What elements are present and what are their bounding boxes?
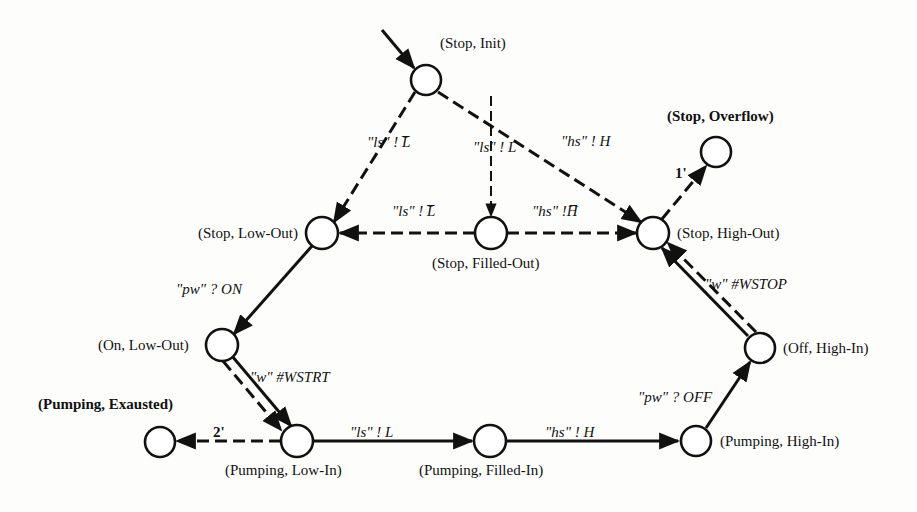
state-pumping-low-in: [281, 425, 313, 457]
state-off-high-in: [745, 333, 775, 363]
label-edge-lowout-onlowout: "pw" ? ON: [176, 281, 243, 297]
label-pumping-filled-in: (Pumping, Filled-In): [419, 462, 543, 479]
edge-highin-offhighin: [706, 362, 750, 428]
state-stop-filled-out: [475, 217, 507, 249]
label-pumping-low-in: (Pumping, Low-In): [225, 462, 342, 479]
state-on-low-out: [206, 329, 238, 361]
state-stop-low-out: [306, 217, 338, 249]
label-edge-init-filledout: "ls" ! L: [473, 139, 516, 155]
label-edge-highout-overflow: 1': [675, 165, 687, 181]
label-off-high-in: (Off, High-In): [783, 340, 869, 357]
state-pumping-exausted: [145, 427, 175, 457]
label-stop-low-out: (Stop, Low-Out): [198, 225, 298, 242]
label-pumping-high-in: (Pumping, High-In): [720, 433, 839, 450]
label-edge-init-highout: "hs" ! H: [561, 133, 611, 149]
label-edge-lowin-filledin: "ls" ! L: [350, 424, 393, 440]
label-stop-high-out: (Stop, High-Out): [677, 225, 780, 242]
state-stop-init: [411, 65, 441, 95]
edge-offhighin-highout-solid: [662, 248, 748, 336]
label-stop-init: (Stop, Init): [440, 35, 506, 52]
label-edge-highin-offhighin: "pw" ? OFF: [638, 389, 713, 405]
label-edge-lowin-exausted: 2': [213, 424, 225, 440]
state-stop-high-out: [637, 217, 669, 249]
label-edge-offhighin-highout: "w" #WSTOP: [705, 276, 787, 292]
label-stop-filled-out: (Stop, Filled-Out): [432, 255, 540, 272]
label-edge-filledout-highout: "hs" !H̅: [532, 203, 579, 219]
label-edge-filledin-highin: "hs" ! H: [545, 424, 595, 440]
label-on-low-out: (On, Low-Out): [98, 337, 189, 354]
initial-arrow: [382, 30, 414, 68]
state-diagram: (Stop, Init) (Stop, Overflow) (Stop, Low…: [0, 0, 917, 512]
label-stop-overflow: (Stop, Overflow): [667, 108, 774, 125]
label-edge-init-lowout: "ls" ! L̅: [367, 134, 410, 150]
label-pumping-exausted: (Pumping, Exausted): [38, 396, 173, 413]
edge-lowout-onlowout: [234, 246, 312, 334]
label-edge-filledout-lowout: "ls" ! L̅: [392, 203, 435, 219]
state-stop-overflow: [701, 137, 731, 167]
state-pumping-filled-in: [474, 425, 506, 457]
edge-onlowout-pumplowin-solid: [232, 356, 291, 426]
label-edge-onlowout-pumplowin: "w" #WSTRT: [250, 369, 331, 385]
state-pumping-high-in: [681, 426, 711, 456]
